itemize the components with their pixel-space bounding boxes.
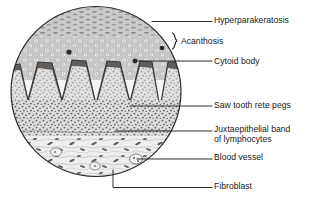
acanthosis-brace	[173, 33, 178, 49]
specimen-circle-content	[8, 0, 188, 202]
deep-connective-tissue	[8, 134, 188, 182]
label-juxtaepithelial-line2: of lymphocytes	[214, 134, 272, 144]
cytoid-body-right	[160, 46, 165, 51]
label-juxtaepithelial-line1: Juxtaepithelial band	[214, 124, 290, 134]
label-acanthosis: Acanthosis	[181, 36, 223, 46]
label-fibroblast: Fibroblast	[214, 181, 252, 191]
label-hyperparakeratosis: Hyperparakeratosis	[214, 15, 289, 25]
cytoid-body-left	[66, 49, 71, 54]
leader-fibroblast	[113, 170, 212, 188]
label-cytoid-body: Cytoid body	[214, 56, 260, 66]
blood-vessel-secondary	[51, 148, 62, 156]
label-saw-tooth-rete-pegs: Saw tooth rete pegs	[214, 100, 291, 110]
label-juxtaepithelial-band: Juxtaepithelial bandof lymphocytes	[214, 124, 290, 145]
blood-vessel-tertiary	[90, 162, 100, 170]
label-blood-vessel: Blood vessel	[214, 152, 263, 162]
